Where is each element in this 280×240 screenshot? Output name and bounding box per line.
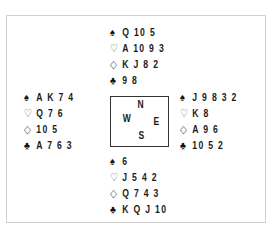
club-icon: ♣	[24, 137, 36, 153]
south-diamonds-row: ◇Q 7 4 3	[110, 185, 167, 201]
south-hearts-row: ♡J 5 4 2	[110, 169, 167, 185]
compass-east-label: E	[154, 116, 160, 127]
compass-west-label: W	[123, 113, 131, 124]
east-spades: J 9 8 3 2	[192, 89, 237, 105]
heart-icon: ♡	[180, 105, 192, 121]
west-hand: ♠A K 7 4 ♡Q 7 6 ◇10 5 ♣A 7 6 3	[24, 89, 74, 153]
west-diamonds-row: ◇10 5	[24, 121, 74, 137]
west-clubs: A 7 6 3	[36, 137, 73, 153]
west-hearts: Q 7 6	[36, 105, 64, 121]
north-clubs-row: ♣9 8	[110, 72, 165, 88]
west-spades-row: ♠A K 7 4	[24, 89, 74, 105]
diamond-icon: ◇	[24, 121, 36, 137]
south-hand: ♠6 ♡J 5 4 2 ◇Q 7 4 3 ♣K Q J 10	[110, 153, 167, 217]
north-hearts-row: ♡A 10 9 3	[110, 40, 165, 56]
spade-icon: ♠	[110, 153, 122, 169]
west-spades: A K 7 4	[36, 89, 74, 105]
north-spades: Q 10 5	[122, 24, 156, 40]
south-spades-row: ♠6	[110, 153, 167, 169]
south-diamonds: Q 7 4 3	[122, 185, 159, 201]
east-diamonds: A 9 6	[192, 121, 219, 137]
spade-icon: ♠	[24, 89, 36, 105]
north-diamonds: K J 8 2	[122, 56, 159, 72]
diamond-icon: ◇	[110, 56, 122, 72]
club-icon: ♣	[110, 201, 122, 217]
heart-icon: ♡	[110, 169, 122, 185]
south-clubs-row: ♣K Q J 10	[110, 201, 167, 217]
east-hearts-row: ♡K 8	[180, 105, 238, 121]
heart-icon: ♡	[24, 105, 36, 121]
heart-icon: ♡	[110, 40, 122, 56]
west-clubs-row: ♣A 7 6 3	[24, 137, 74, 153]
compass-south-label: S	[139, 130, 145, 141]
east-clubs: 10 5 2	[192, 137, 224, 153]
south-hearts: J 5 4 2	[122, 169, 158, 185]
spade-icon: ♠	[180, 89, 192, 105]
north-clubs: 9 8	[122, 72, 138, 88]
east-diamonds-row: ◇A 9 6	[180, 121, 238, 137]
north-diamonds-row: ◇K J 8 2	[110, 56, 165, 72]
east-hand: ♠J 9 8 3 2 ♡K 8 ◇A 9 6 ♣10 5 2	[180, 89, 238, 153]
south-clubs: K Q J 10	[122, 201, 167, 217]
south-spades: 6	[122, 153, 128, 169]
diamond-icon: ◇	[110, 185, 122, 201]
club-icon: ♣	[180, 137, 192, 153]
compass-box: N W E S	[110, 96, 169, 147]
north-hand: ♠Q 10 5 ♡A 10 9 3 ◇K J 8 2 ♣9 8	[110, 24, 165, 88]
east-spades-row: ♠J 9 8 3 2	[180, 89, 238, 105]
east-hearts: K 8	[192, 105, 209, 121]
diamond-icon: ◇	[180, 121, 192, 137]
west-diamonds: 10 5	[36, 121, 58, 137]
north-spades-row: ♠Q 10 5	[110, 24, 165, 40]
compass-north-label: N	[138, 99, 144, 110]
west-hearts-row: ♡Q 7 6	[24, 105, 74, 121]
east-clubs-row: ♣10 5 2	[180, 137, 238, 153]
north-hearts: A 10 9 3	[122, 40, 165, 56]
spade-icon: ♠	[110, 24, 122, 40]
club-icon: ♣	[110, 72, 122, 88]
